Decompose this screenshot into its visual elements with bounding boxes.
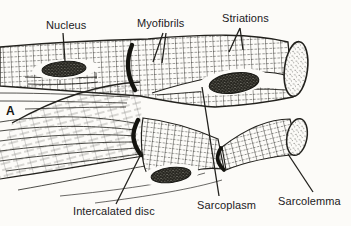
muscle-fiber-bottom-left: [0, 82, 145, 190]
label-sarcoplasm: Sarcoplasm: [197, 199, 256, 211]
label-sarcolemma: Sarcolemma: [278, 195, 341, 207]
label-myofibrils: Myofibrils: [137, 17, 184, 29]
cardiac-muscle-figure: A Nucleus Myofibrils Striations Intercal…: [0, 0, 351, 226]
label-nucleus: Nucleus: [46, 19, 86, 31]
label-striations: Striations: [222, 12, 269, 24]
panel-letter: A: [6, 104, 15, 118]
muscle-tissue-illustration: [0, 0, 351, 226]
label-intercalated-disc: Intercalated disc: [73, 205, 155, 217]
sarcolemma-leader-line: [288, 154, 313, 192]
